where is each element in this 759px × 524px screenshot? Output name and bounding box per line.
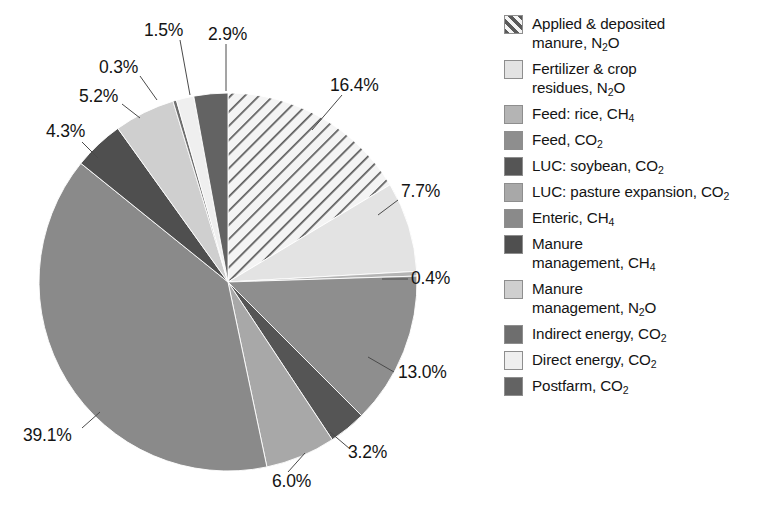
legend-item-label: Applied & depositedmanure, N2O bbox=[532, 14, 665, 53]
legend-swatch-icon bbox=[504, 280, 523, 299]
slice-percentage-label: 2.9% bbox=[208, 26, 247, 44]
label-leader-line bbox=[180, 40, 190, 95]
pie-chart-area: 16.4%7.7%0.4%13.0%3.2%6.0%39.1%4.3%5.2%0… bbox=[0, 0, 466, 524]
label-leader-line bbox=[140, 76, 157, 100]
legend-item-label: Manuremanagement, N2O bbox=[532, 279, 656, 318]
slice-percentage-label: 0.3% bbox=[99, 59, 138, 77]
legend-swatch-icon bbox=[504, 157, 523, 176]
legend-item-label: Feed, CO2 bbox=[532, 130, 603, 149]
legend-swatch-icon bbox=[504, 15, 523, 34]
legend-swatch-icon bbox=[504, 235, 523, 254]
legend-item[interactable]: Direct energy, CO2 bbox=[504, 350, 756, 370]
legend-item-label: Indirect energy, CO2 bbox=[532, 324, 666, 343]
legend-item-label: Manuremanagement, CH4 bbox=[532, 234, 655, 273]
slice-percentage-label: 6.0% bbox=[272, 473, 311, 491]
legend-swatch-icon bbox=[504, 60, 523, 79]
legend-item[interactable]: Enteric, CH4 bbox=[504, 208, 756, 228]
slice-percentage-label: 0.4% bbox=[411, 270, 450, 288]
legend-item-label: Enteric, CH4 bbox=[532, 208, 614, 227]
legend-item[interactable]: Applied & depositedmanure, N2O bbox=[504, 14, 756, 53]
legend-item-label: LUC: soybean, CO2 bbox=[532, 156, 664, 175]
legend-swatch-icon bbox=[504, 351, 523, 370]
slice-percentage-label: 1.5% bbox=[144, 22, 183, 40]
chart-legend: Applied & depositedmanure, N2OFertilizer… bbox=[504, 14, 756, 402]
legend-item[interactable]: LUC: soybean, CO2 bbox=[504, 156, 756, 176]
pie-slices-group bbox=[39, 93, 417, 471]
legend-item[interactable]: Feed: rice, CH4 bbox=[504, 104, 756, 124]
slice-percentage-label: 39.1% bbox=[23, 427, 72, 445]
slice-percentage-label: 13.0% bbox=[398, 364, 447, 382]
legend-swatch-icon bbox=[504, 105, 523, 124]
slice-percentage-label: 3.2% bbox=[348, 444, 387, 462]
legend-item[interactable]: Manuremanagement, CH4 bbox=[504, 234, 756, 273]
legend-item[interactable]: Manuremanagement, N2O bbox=[504, 279, 756, 318]
label-leader-line bbox=[122, 104, 140, 118]
legend-swatch-icon bbox=[504, 131, 523, 150]
legend-item-label: LUC: pasture expansion, CO2 bbox=[532, 182, 729, 201]
legend-swatch-icon bbox=[504, 325, 523, 344]
legend-item-label: Direct energy, CO2 bbox=[532, 350, 656, 369]
legend-item[interactable]: LUC: pasture expansion, CO2 bbox=[504, 182, 756, 202]
pie-chart-svg bbox=[0, 0, 466, 524]
legend-item[interactable]: Postfarm, CO2 bbox=[504, 376, 756, 396]
legend-item[interactable]: Indirect energy, CO2 bbox=[504, 324, 756, 344]
slice-percentage-label: 16.4% bbox=[330, 77, 379, 95]
legend-item-label: Feed: rice, CH4 bbox=[532, 104, 634, 123]
slice-percentage-label: 7.7% bbox=[401, 183, 440, 201]
slice-percentage-label: 5.2% bbox=[79, 88, 118, 106]
legend-swatch-icon bbox=[504, 183, 523, 202]
legend-swatch-icon bbox=[504, 209, 523, 228]
legend-item-label: Postfarm, CO2 bbox=[532, 376, 629, 395]
slice-percentage-label: 4.3% bbox=[46, 123, 85, 141]
label-leader-line bbox=[82, 412, 100, 428]
legend-swatch-icon bbox=[504, 377, 523, 396]
legend-item-label: Fertilizer & cropresidues, N2O bbox=[532, 59, 637, 98]
legend-item[interactable]: Fertilizer & cropresidues, N2O bbox=[504, 59, 756, 98]
legend-item[interactable]: Feed, CO2 bbox=[504, 130, 756, 150]
